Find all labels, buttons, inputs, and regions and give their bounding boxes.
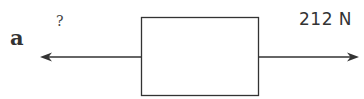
left-force-arrow [40,53,141,62]
body-box [142,18,259,96]
right-force-arrow [259,53,359,62]
free-body-diagram [0,0,364,99]
